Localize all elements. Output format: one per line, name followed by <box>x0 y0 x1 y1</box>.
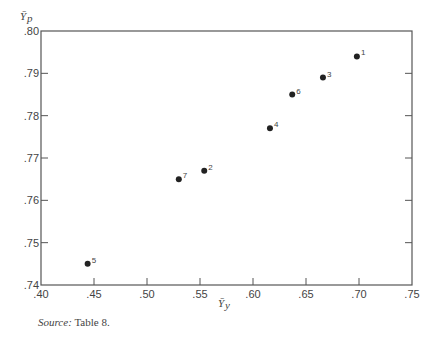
x-tick-label: .65 <box>298 288 313 300</box>
data-point-label: 4 <box>274 120 279 129</box>
data-point <box>85 261 91 267</box>
data-point <box>289 92 295 98</box>
data-point-label: 1 <box>361 48 366 57</box>
y-tick-label: .77 <box>24 152 39 164</box>
y-tick-label: .74 <box>24 279 39 291</box>
y-tick-label: .75 <box>24 237 39 249</box>
x-tick-label: .45 <box>86 288 101 300</box>
data-point <box>267 125 273 131</box>
data-point <box>176 176 182 182</box>
data-point <box>201 168 207 174</box>
data-point-label: 3 <box>327 70 332 79</box>
data-point-label: 7 <box>183 171 188 180</box>
scatter-chart: .40.45.50.55.60.65.70.75.74.75.76.77.78.… <box>0 0 438 340</box>
data-point <box>354 53 360 59</box>
y-tick-label: .80 <box>24 25 39 37</box>
y-tick-label: .78 <box>24 110 39 122</box>
plot-frame <box>41 31 412 285</box>
x-axis-title-subscript: y <box>224 299 230 311</box>
y-tick-label: .76 <box>24 194 39 206</box>
x-tick-label: .70 <box>351 288 366 300</box>
y-axis-title-subscript: p <box>26 12 33 24</box>
x-tick-label: .75 <box>404 288 419 300</box>
data-point-label: 2 <box>208 163 213 172</box>
data-point-label: 5 <box>92 256 97 265</box>
data-point <box>320 75 326 81</box>
source-note: Source: Table 8. <box>38 316 110 328</box>
x-tick-label: .50 <box>139 288 154 300</box>
y-tick-label: .79 <box>24 67 39 79</box>
data-point-label: 6 <box>296 87 301 96</box>
x-tick-label: .55 <box>192 288 207 300</box>
source-key: Source: <box>38 316 72 328</box>
source-text: Table 8. <box>74 316 109 328</box>
x-tick-label: .60 <box>245 288 260 300</box>
